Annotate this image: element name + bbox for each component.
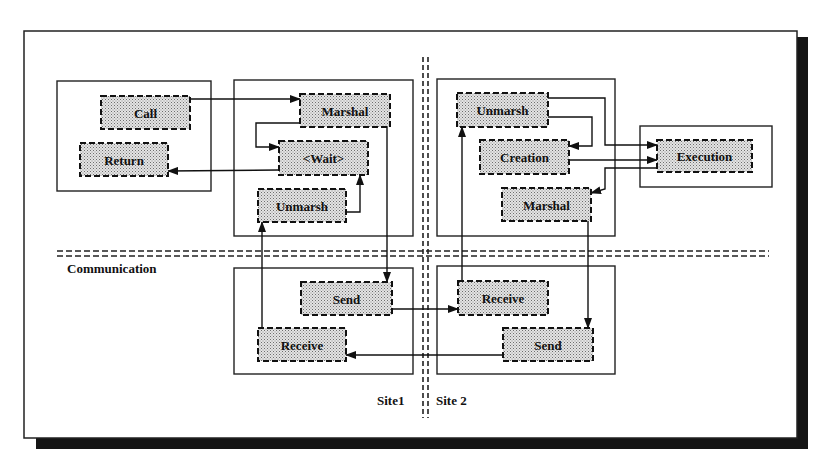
node-label: Creation: [500, 150, 550, 165]
communication-label: Communication: [67, 261, 157, 276]
node-label: Marshal: [322, 104, 369, 119]
node-send1: Send: [301, 282, 392, 315]
node-unmarsh2: Unmarsh: [457, 93, 548, 127]
site1-label: Site1: [377, 393, 404, 408]
node-label: Send: [534, 338, 562, 353]
node-label: Unmarsh: [476, 103, 529, 118]
node-call: Call: [101, 96, 190, 129]
node-label: Return: [104, 153, 144, 168]
diagram-frame: [24, 31, 797, 438]
node-receive1: Receive: [258, 328, 346, 361]
node-marshal1: Marshal: [300, 94, 390, 127]
node-wait: <Wait>: [279, 141, 368, 175]
node-return: Return: [80, 143, 168, 176]
site2-label: Site 2: [436, 393, 467, 408]
node-unmarsh1: Unmarsh: [258, 189, 346, 222]
node-execution: Execution: [657, 140, 752, 172]
node-label: Receive: [482, 291, 525, 306]
node-marshal2: Marshal: [502, 188, 591, 221]
node-label: <Wait>: [303, 151, 345, 166]
node-label: Execution: [677, 149, 733, 164]
node-label: Call: [134, 106, 158, 121]
node-label: Marshal: [523, 198, 570, 213]
node-send2: Send: [503, 328, 593, 361]
node-label: Send: [333, 292, 361, 307]
edge-wait-return: [168, 170, 279, 171]
node-label: Unmarsh: [276, 199, 329, 214]
node-creation: Creation: [480, 140, 569, 174]
node-receive2: Receive: [458, 281, 548, 315]
diagram-svg: CallReturnMarshal<Wait>UnmarshUnmarshCre…: [0, 0, 829, 468]
node-label: Receive: [281, 338, 324, 353]
